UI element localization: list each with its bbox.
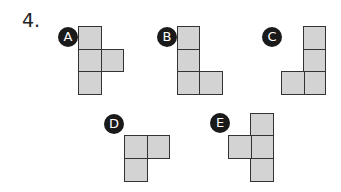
shape-square [228,135,252,159]
shape-square [250,113,274,137]
shape-square [250,135,274,159]
option-e[interactable]: E [0,0,341,192]
option-label-badge: E [210,113,230,133]
shape-square [250,158,274,182]
